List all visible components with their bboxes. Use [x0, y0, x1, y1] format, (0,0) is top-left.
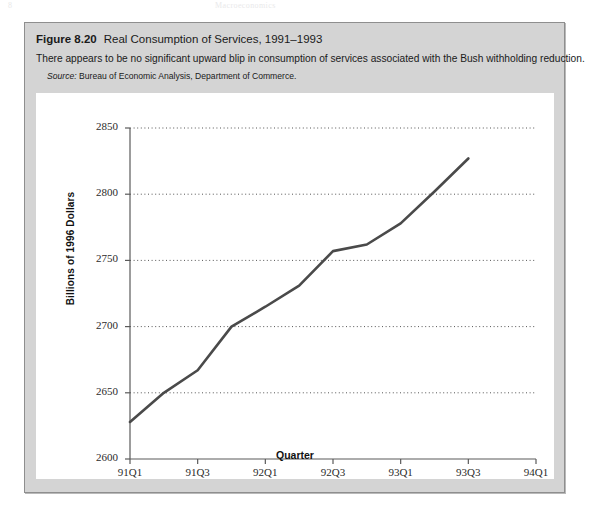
x-tick-label: 91Q3 [170, 466, 226, 478]
source-label: Source: [47, 71, 77, 81]
figure-number: Figure 8.20 [36, 33, 97, 45]
y-axis-label: Billions of 1996 Dollars [65, 179, 76, 319]
figure-title-text: Real Consumption of Services, 1991–1993 [104, 33, 323, 45]
x-axis-label: Quarter [36, 449, 554, 461]
running-head-left: 8 [8, 1, 12, 10]
running-head: 8 Macroeconomics [0, 0, 589, 16]
page-root: 8 Macroeconomics Figure 8.20Real Consump… [0, 0, 589, 518]
x-tick-label: 91Q1 [102, 466, 158, 478]
chart-card: 260026502700275028002850 91Q191Q392Q192Q… [36, 93, 554, 479]
x-tick-label: 94Q1 [508, 466, 564, 478]
x-tick-label: 93Q3 [440, 466, 496, 478]
line-chart [36, 93, 554, 479]
y-tick-label: 2650 [72, 385, 118, 397]
y-tick-marks [125, 128, 130, 459]
running-head-center: Macroeconomics [215, 1, 276, 10]
y-tick-label: 2850 [72, 120, 118, 132]
source-text: Bureau of Economic Analysis, Department … [79, 71, 296, 81]
y-tick-label: 2750 [72, 252, 118, 264]
x-tick-label: 92Q1 [237, 466, 293, 478]
x-tick-label: 93Q1 [373, 466, 429, 478]
figure-title: Figure 8.20Real Consumption of Services,… [36, 33, 322, 45]
gridlines [130, 128, 536, 393]
figure-panel: Figure 8.20Real Consumption of Services,… [24, 22, 565, 493]
series-line [130, 158, 468, 421]
x-tick-label: 92Q3 [305, 466, 361, 478]
y-tick-label: 2700 [72, 319, 118, 331]
figure-source: Source: Bureau of Economic Analysis, Dep… [47, 71, 296, 81]
y-tick-label: 2800 [72, 186, 118, 198]
figure-caption: There appears to be no significant upwar… [36, 53, 585, 64]
